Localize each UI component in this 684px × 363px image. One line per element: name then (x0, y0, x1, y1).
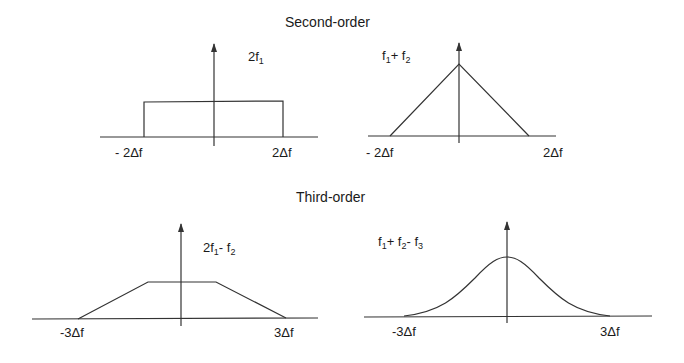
panel-2f1-minus-f2-label: 2f1- f2 (203, 241, 235, 257)
panel-2f1-label: 2f1 (248, 50, 264, 66)
third-order-title: Third-order (296, 190, 365, 204)
panel-f1-plus-f2-minus-f3-x-right: 3Δf (600, 325, 620, 338)
x-axis (32, 318, 318, 319)
arrow-head-icon (504, 221, 510, 230)
panel-f1-plus-f2-minus-f3-x-left: -3Δf (392, 325, 416, 338)
panel-f1-plus-f2-x-left: - 2Δf (366, 146, 393, 159)
arrow-head-icon (211, 43, 217, 52)
arrow-head-icon (178, 223, 184, 232)
panel-f1-plus-f2-x-right: 2Δf (543, 146, 563, 159)
second-order-title: Second-order (285, 15, 370, 29)
diagram-canvas (0, 0, 684, 363)
arrow-head-icon (456, 42, 462, 51)
trapezoid-spectrum (78, 282, 286, 319)
panel-f1-plus-f2-minus-f3-label: f1+ f2- f3 (378, 235, 423, 251)
panel-2f1-minus-f2-x-left: -3Δf (60, 326, 84, 339)
panel-2f1-minus-f2-x-right: 3Δf (274, 326, 294, 339)
panel-2f1-plot (4, 0, 318, 146)
panel-f1-plus-f2-label: f1+ f2 (382, 49, 410, 65)
panel-2f1-minus-f2-plot (32, 223, 318, 326)
panel-2f1-x-left: - 2Δf (115, 146, 142, 159)
panel-2f1-x-right: 2Δf (272, 146, 292, 159)
